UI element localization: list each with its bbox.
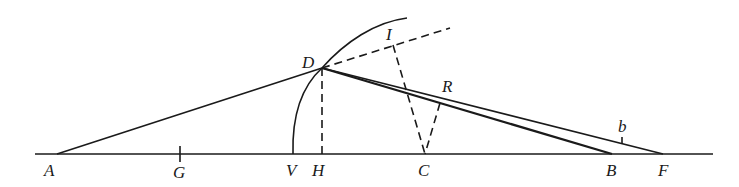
label-c: C	[418, 161, 430, 180]
line-df	[322, 68, 663, 154]
label-h: H	[311, 161, 326, 180]
label-a: A	[43, 161, 55, 180]
line-db	[322, 68, 612, 154]
label-d: D	[301, 53, 315, 72]
line-ad	[57, 68, 322, 154]
line-rc	[425, 103, 440, 154]
label-b-upper: B	[606, 161, 617, 180]
line-ic	[393, 45, 425, 154]
label-b-lower: b	[618, 117, 627, 136]
label-r: R	[441, 77, 453, 96]
label-f: F	[657, 161, 669, 180]
label-g: G	[173, 163, 185, 182]
label-v: V	[286, 161, 299, 180]
geometry-diagram: A G V H C B F D I R b	[0, 0, 739, 187]
label-i: I	[385, 25, 393, 44]
